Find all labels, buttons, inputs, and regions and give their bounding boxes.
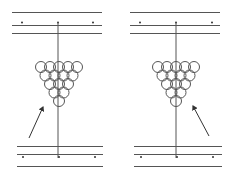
left-table-panel: [12, 13, 103, 167]
bottom-diamonds: [22, 156, 96, 158]
ball-rack-triangle: [36, 62, 83, 107]
right-table-panel: [130, 13, 222, 167]
bottom-rail: [17, 147, 103, 167]
bottom-rail: [134, 147, 222, 167]
shot-direction-arrow: [193, 106, 209, 136]
top-rail: [130, 13, 220, 34]
bottom-diamonds: [140, 156, 214, 158]
billiards-diagram: [0, 0, 234, 174]
shot-direction-arrow: [29, 107, 43, 138]
top-rail: [12, 13, 102, 34]
